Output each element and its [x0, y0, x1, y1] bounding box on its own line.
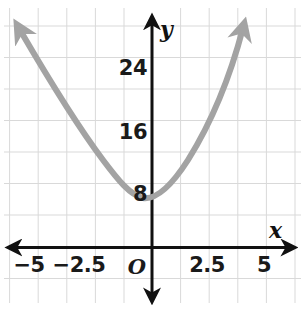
graph-figure: 24 16 8 −5 −2.5 2.5 5 O y x	[0, 0, 303, 311]
y-tick-label-24: 24	[119, 58, 147, 79]
x-tick-label-2point5: 2.5	[189, 255, 225, 276]
y-axis-label: y	[160, 18, 173, 40]
y-tick-label-8: 8	[133, 184, 147, 205]
x-axis-label: x	[269, 219, 282, 241]
y-tick-label-16: 16	[119, 122, 147, 143]
x-tick-label-neg2point5: −2.5	[53, 255, 106, 276]
x-tick-label-5: 5	[257, 255, 271, 276]
origin-label: O	[128, 256, 146, 277]
x-tick-label-neg5: −5	[13, 255, 44, 276]
